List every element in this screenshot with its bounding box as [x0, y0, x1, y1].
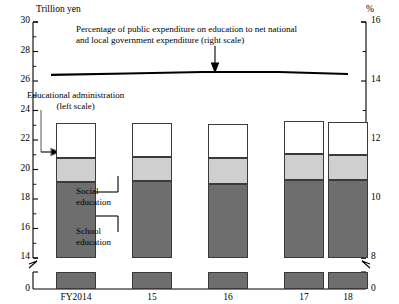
right-tick-14: 14 — [371, 74, 381, 84]
left-tick-20: 20 — [2, 163, 30, 173]
bar-17-admin — [284, 121, 324, 154]
bar-16-social — [208, 158, 248, 184]
school-annotation: School education — [76, 226, 111, 247]
line-annotation-leader — [212, 46, 219, 72]
xlabel-18: 18 — [323, 292, 373, 302]
bar-15-admin — [132, 123, 172, 157]
bar-16-admin — [208, 124, 248, 158]
xlabel-15: 15 — [127, 292, 177, 302]
bar-stub-17 — [284, 272, 324, 289]
left-tick-zero: 0 — [2, 283, 30, 293]
bar-stub-18 — [328, 272, 368, 289]
right-tick-16: 16 — [371, 15, 381, 25]
education-expenditure-chart: Trillion yen % — [0, 0, 399, 304]
left-tick-16: 16 — [2, 222, 30, 232]
left-tick-24: 24 — [2, 104, 30, 114]
xlabel-fy2014: FY2014 — [41, 292, 111, 302]
left-tick-30: 30 — [2, 15, 30, 25]
admin-annotation: Educational administration (left scale) — [27, 90, 124, 111]
bar-17-school — [284, 180, 324, 258]
left-tick-14: 14 — [2, 251, 30, 261]
school-annotation-line2: education — [76, 237, 111, 248]
bar-stub-16 — [208, 272, 248, 289]
bar-18-social — [328, 155, 368, 180]
percentage-line — [51, 72, 348, 75]
left-tick-18: 18 — [2, 192, 30, 202]
bar-stub-fy2014 — [56, 272, 96, 289]
bar-17-social — [284, 154, 324, 180]
right-tick-12: 12 — [371, 133, 381, 143]
left-tick-26: 26 — [2, 74, 30, 84]
left-tick-22: 22 — [2, 133, 30, 143]
admin-annotation-line2: (left scale) — [27, 101, 124, 112]
bar-15-school — [132, 181, 172, 258]
line-annotation-line2: and local government expenditure (right … — [76, 35, 297, 46]
bar-15-social — [132, 157, 172, 181]
bar-stub-15 — [132, 272, 172, 289]
social-annotation: Social education — [76, 186, 111, 207]
right-tick-10: 10 — [371, 192, 381, 202]
bar-16-school — [208, 184, 248, 258]
bar-18-admin — [328, 122, 368, 155]
line-annotation-line1: Percentage of public expenditure on educ… — [76, 24, 297, 35]
line-annotation: Percentage of public expenditure on educ… — [76, 24, 297, 45]
social-annotation-line1: Social — [76, 186, 111, 197]
school-annotation-line1: School — [76, 226, 111, 237]
xlabel-16: 16 — [203, 292, 253, 302]
right-tick-8: 8 — [371, 251, 376, 261]
bar-fy2014-social — [56, 158, 96, 182]
bar-fy2014-admin — [56, 123, 96, 158]
xlabel-17: 17 — [279, 292, 329, 302]
admin-annotation-line1: Educational administration — [27, 90, 124, 101]
social-annotation-line2: education — [76, 197, 111, 208]
left-tick-28: 28 — [2, 45, 30, 55]
bar-18-school — [328, 180, 368, 258]
